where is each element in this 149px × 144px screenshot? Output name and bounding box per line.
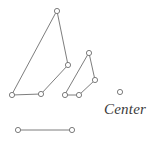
small-polygon-vertex-bottom-right[interactable] (76, 92, 81, 97)
small-polygon (62, 50, 97, 97)
bottom-segment-vertex-left[interactable] (15, 127, 20, 132)
bottom-segment (15, 127, 74, 132)
center-label: Center (104, 102, 146, 117)
bottom-segment-vertex-right[interactable] (69, 127, 74, 132)
large-polygon-vertex-top[interactable] (54, 8, 59, 13)
center-point-group (117, 89, 122, 94)
diagram-canvas: Center (0, 0, 149, 144)
small-polygon-vertex-right[interactable] (92, 77, 97, 82)
large-polygon-outline (12, 11, 68, 95)
diagram-svg (0, 0, 149, 144)
large-polygon-vertex-bottom-right[interactable] (38, 91, 43, 96)
small-polygon-vertex-bottom-left[interactable] (62, 92, 67, 97)
small-polygon-outline (65, 53, 95, 95)
large-polygon-vertex-bottom-left[interactable] (9, 92, 14, 97)
small-polygon-vertex-top[interactable] (86, 50, 91, 55)
large-polygon (9, 8, 70, 97)
large-polygon-vertex-right[interactable] (65, 62, 70, 67)
center-point-icon[interactable] (117, 89, 122, 94)
